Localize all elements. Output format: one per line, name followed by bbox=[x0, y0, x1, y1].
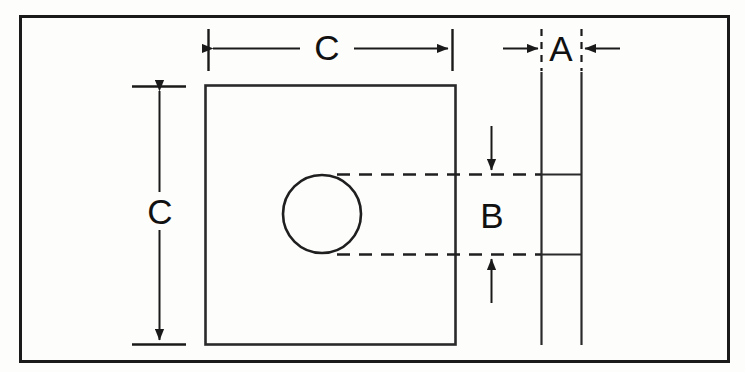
hole-size-dimension-label: B bbox=[480, 196, 503, 235]
height-dimension-label: C bbox=[147, 192, 172, 231]
front-view-plate-outline bbox=[206, 86, 456, 345]
drawing-frame bbox=[21, 17, 729, 362]
front-view-hole-circle bbox=[283, 175, 361, 253]
width-dimension-label: C bbox=[314, 28, 339, 67]
technical-drawing-svg: C C A B bbox=[0, 0, 745, 372]
technical-drawing-canvas: C C A B bbox=[0, 0, 745, 372]
thickness-dimension-label: A bbox=[549, 29, 573, 68]
